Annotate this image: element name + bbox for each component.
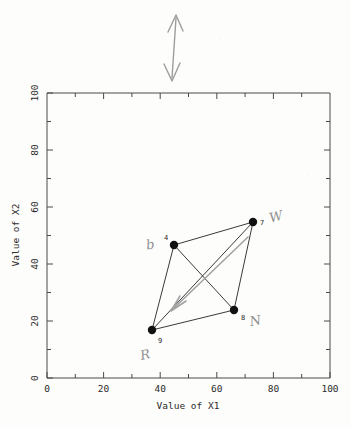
chart-page: 0 20 40 60 80 100 0 20 40 60 80 100 Valu… <box>0 0 350 427</box>
data-point-label-4: 4 <box>164 234 168 242</box>
data-point-label-7: 7 <box>260 219 264 227</box>
y-tick-label: 80 <box>29 144 40 156</box>
hand-label-b: b <box>145 237 155 253</box>
y-tick-label: 100 <box>29 84 40 101</box>
y-axis-minor-ticks <box>47 122 51 350</box>
x-tick-label: 0 <box>44 383 50 394</box>
y-axis-right-ticks <box>324 122 330 350</box>
x-axis-title: Value of X1 <box>157 400 220 411</box>
y-tick-label: 60 <box>29 201 40 213</box>
edge-8-9 <box>152 310 234 330</box>
x-axis-top-ticks <box>75 93 301 99</box>
edge-9-4 <box>152 245 174 330</box>
y-axis-title: Value of X2 <box>10 204 21 267</box>
x-tick-label: 60 <box>211 383 223 394</box>
hand-label-r: R <box>138 346 152 363</box>
y-tick-label: 40 <box>29 258 40 270</box>
data-point-7[interactable] <box>249 218 257 226</box>
hand-label-n: N <box>247 312 262 329</box>
edge-7-8 <box>234 222 253 310</box>
data-point-label-8: 8 <box>241 314 245 322</box>
x-tick-label: 80 <box>268 383 280 394</box>
x-tick-label: 100 <box>321 383 338 394</box>
y-tick-label: 0 <box>29 375 40 381</box>
hand-label-w: W <box>268 207 286 225</box>
vertical-arrow-annotation <box>164 15 183 81</box>
y-tick-label: 20 <box>29 315 40 327</box>
x-tick-label: 20 <box>98 383 110 394</box>
data-point-9[interactable] <box>148 326 156 334</box>
x-tick-labels: 0 20 40 60 80 100 <box>44 383 339 394</box>
x-tick-label: 40 <box>154 383 166 394</box>
y-tick-labels: 0 20 40 60 80 100 <box>29 84 40 381</box>
edge-4-7 <box>174 222 253 245</box>
scatter-plot: 0 20 40 60 80 100 0 20 40 60 80 100 Valu… <box>0 0 350 427</box>
x-axis-minor-ticks <box>75 374 301 378</box>
data-point-8[interactable] <box>230 306 238 314</box>
axis-frame <box>47 93 330 378</box>
data-point-label-9: 9 <box>158 337 162 345</box>
data-point-4[interactable] <box>170 241 178 249</box>
